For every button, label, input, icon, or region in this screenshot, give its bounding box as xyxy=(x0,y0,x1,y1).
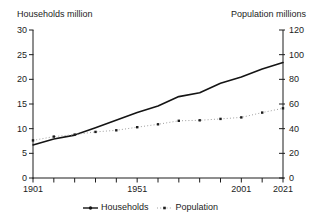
population-marker xyxy=(219,118,221,120)
population-marker xyxy=(199,119,201,121)
population-marker xyxy=(32,139,34,141)
legend-label-households: Households xyxy=(101,202,149,213)
households-legend-marker-icon xyxy=(83,203,98,213)
left-axis-title: Households million xyxy=(17,9,93,20)
x-axis-tick-label: 2021 xyxy=(273,184,293,194)
left-axis-tick-label: 20 xyxy=(17,74,27,84)
right-axis-tick-label: 80 xyxy=(289,74,299,84)
legend-label-population: Population xyxy=(175,202,218,213)
left-axis-tick-label: 10 xyxy=(17,124,27,134)
population-marker xyxy=(240,116,242,118)
right-axis-title: Population millions xyxy=(231,9,306,20)
right-axis-tick-label: 100 xyxy=(289,50,304,60)
households-line xyxy=(33,63,283,145)
left-axis-tick-label: 25 xyxy=(17,50,27,60)
left-axis-tick-label: 5 xyxy=(22,148,27,158)
left-axis-tick-label: 15 xyxy=(17,99,27,109)
population-legend-marker-icon xyxy=(157,203,172,213)
right-axis-tick-label: 20 xyxy=(289,148,299,158)
population-marker xyxy=(157,123,159,125)
chart-legend: Households Population xyxy=(0,201,312,214)
population-marker xyxy=(282,107,284,109)
left-axis-tick-label: 30 xyxy=(17,25,27,35)
population-marker xyxy=(94,131,96,133)
population-marker xyxy=(136,126,138,128)
right-axis-tick-label: 120 xyxy=(289,25,304,35)
population-marker xyxy=(178,120,180,122)
x-axis-tick-label: 2001 xyxy=(231,184,251,194)
right-axis-tick-label: 60 xyxy=(289,99,299,109)
x-axis-tick-label: 1901 xyxy=(23,184,43,194)
population-marker xyxy=(53,135,55,137)
right-axis-tick-label: 0 xyxy=(289,173,294,183)
right-axis-tick-label: 40 xyxy=(289,124,299,134)
chart-figure: 0510152025300204060801001201901195120012… xyxy=(0,0,323,224)
legend-item-population: Population xyxy=(157,202,218,213)
chart-canvas: 0510152025300204060801001201901195120012… xyxy=(0,0,323,224)
population-marker xyxy=(261,111,263,113)
legend-item-households: Households xyxy=(83,202,149,213)
left-axis-tick-label: 0 xyxy=(22,173,27,183)
population-marker xyxy=(74,133,76,135)
population-marker xyxy=(115,129,117,131)
x-axis-tick-label: 1951 xyxy=(127,184,147,194)
